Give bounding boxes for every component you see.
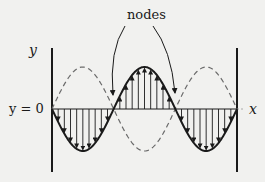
standing-wave-figure	[0, 0, 265, 182]
standing-wave-diagram: nodes y y = 0 x	[0, 0, 265, 182]
y-axis-label: y	[29, 42, 37, 58]
nodes-label: nodes	[127, 7, 166, 22]
node-pointer-arrows	[112, 26, 175, 95]
equilibrium-label: y = 0	[9, 101, 44, 116]
x-axis-label: x	[249, 101, 257, 117]
node-pointer-arrow	[112, 26, 125, 95]
node-pointer-arrow	[153, 26, 175, 93]
